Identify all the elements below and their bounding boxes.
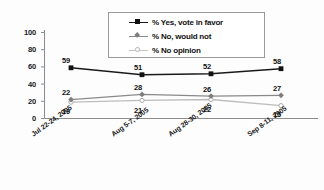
data-label-yes-1: 59 [62, 56, 70, 65]
y-tick-label-20: 20 [10, 97, 36, 106]
legend-marker-open-circle-icon [129, 45, 148, 55]
y-tick-label-100: 100 [10, 28, 36, 37]
legend-item-yes-vote-in-favor[interactable]: % Yes, vote in favor [109, 15, 264, 29]
legend-label-yes: % Yes, vote in favor [152, 18, 223, 27]
data-label-no-opinion-2: 21 [134, 106, 142, 115]
data-label-no-opinion-3: 22 [203, 105, 211, 114]
y-tick-label-40: 40 [10, 80, 36, 89]
data-label-no-3: 26 [203, 85, 211, 94]
chart-legend: % Yes, vote in favor % No, would not % N… [108, 12, 265, 58]
y-tick-marks [41, 33, 45, 119]
legend-marker-filled-square-icon [129, 17, 148, 27]
data-label-yes-2: 51 [134, 63, 142, 72]
y-tick-label-0: 0 [10, 114, 36, 123]
data-label-no-1: 22 [62, 88, 70, 97]
line-chart: 100 80 60 40 20 0 Jul 22-24, 2005 Aug 5-… [0, 0, 324, 190]
data-label-yes-4: 58 [273, 57, 281, 66]
legend-item-no-would-not[interactable]: % No, would not [109, 29, 264, 43]
data-label-no-opinion-1: 19 [62, 107, 70, 116]
data-label-yes-3: 52 [203, 62, 211, 71]
data-label-no-4: 27 [273, 84, 281, 93]
y-tick-label-60: 60 [10, 62, 36, 71]
series-no-opinion [69, 97, 283, 107]
data-label-no-2: 28 [134, 83, 142, 92]
legend-item-no-opinion[interactable]: % No opinion [109, 43, 264, 57]
legend-label-no-opinion: % No opinion [152, 46, 201, 55]
y-tick-label-80: 80 [10, 45, 36, 54]
series-yes-vote-in-favor [69, 65, 284, 77]
legend-label-no: % No, would not [152, 32, 211, 41]
series-no-would-not [68, 92, 284, 103]
legend-marker-filled-diamond-icon [129, 31, 148, 41]
data-label-no-opinion-4: 15 [273, 110, 281, 119]
